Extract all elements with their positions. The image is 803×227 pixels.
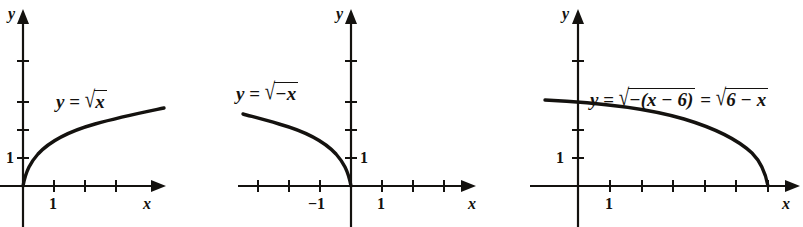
panel3-equation-lhs: y xyxy=(590,89,598,110)
panel3-x-tick-label-1: 1 xyxy=(605,196,613,212)
panel3-radical-group-first: √−(x − 6) xyxy=(619,88,696,109)
panel2-equation-equals: = xyxy=(249,83,260,104)
radical-sign: √ xyxy=(716,85,726,109)
panel2-x-tick-label-neg-1: −1 xyxy=(308,196,325,212)
radical-sign: √ xyxy=(265,79,275,103)
panel1-y-axis-label: y xyxy=(8,6,15,22)
x-axis-arrowhead xyxy=(785,180,800,192)
panel1-radicand: x xyxy=(94,90,107,111)
panel1-radical-group: √x xyxy=(85,90,107,111)
panel1-y-tick-label-1: 1 xyxy=(6,150,14,166)
panel1-x-tick-label-1: 1 xyxy=(49,196,57,212)
panel-sqrt-neg-x-axes xyxy=(238,9,476,227)
x-axis-arrowhead xyxy=(151,180,166,192)
panel2-equation: y = √−x xyxy=(236,82,298,103)
panel2-y-axis-label: y xyxy=(336,6,343,22)
panel2-x-tick-label-1: 1 xyxy=(377,196,385,212)
y-axis-arrowhead xyxy=(572,9,584,24)
panel3-equation: y = √−(x − 6) = √6 − x xyxy=(590,88,768,109)
panel3-y-axis-label: y xyxy=(562,6,569,22)
three-square-root-graphs-figure: y x 1 1 y = √x y x 1 −1 1 y = √−x y x 1 … xyxy=(0,0,803,227)
panel3-radicand-first: −(x − 6) xyxy=(628,88,695,109)
panel2-radical-group: √−x xyxy=(265,82,298,103)
x-axis-arrowhead xyxy=(461,180,476,192)
panel2-x-axis-label: x xyxy=(468,196,476,212)
panel3-equation-equals-second: = xyxy=(700,89,711,110)
curve-sqrt-neg-x xyxy=(243,114,351,186)
figure-canvas xyxy=(0,0,803,227)
y-axis-arrowhead xyxy=(345,9,357,24)
panel1-equation-lhs: y xyxy=(56,91,64,112)
panel2-radicand: −x xyxy=(274,82,298,103)
panel3-x-axis-label: x xyxy=(782,196,790,212)
panel3-radicand-second: 6 − x xyxy=(725,88,768,109)
radical-sign: √ xyxy=(85,87,95,111)
panel1-equation-equals: = xyxy=(69,91,80,112)
panel3-equation-equals-first: = xyxy=(603,89,614,110)
panel3-radical-group-second: √6 − x xyxy=(716,88,768,109)
panel1-x-axis-label: x xyxy=(143,196,151,212)
curve-sqrt-x xyxy=(23,108,164,186)
panel-sqrt-x-axes xyxy=(0,9,166,227)
panel3-y-tick-label-1: 1 xyxy=(556,150,564,166)
radical-sign: √ xyxy=(619,85,629,109)
panel-sqrt-6-minus-x-axes xyxy=(530,9,800,227)
y-axis-arrowhead xyxy=(17,9,29,24)
panel2-y-tick-label-1: 1 xyxy=(360,150,368,166)
panel1-equation: y = √x xyxy=(56,90,107,111)
panel2-equation-lhs: y xyxy=(236,83,244,104)
